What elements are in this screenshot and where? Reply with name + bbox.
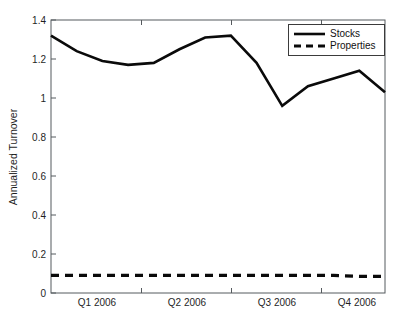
legend-label-stocks: Stocks [330,28,360,39]
x-tick-label-q2: Q2 2006 [168,297,207,308]
y-tick-label-1-2: 1.2 [32,54,46,65]
y-tick-label-0-6: 0.6 [32,171,46,182]
y-tick-label-1-4: 1.4 [32,15,46,26]
line-chart: 0 0.2 0.4 0.6 0.8 1 1.2 1.4 Q1 2006 Q2 2… [0,0,403,325]
chart-legend[interactable]: Stocks Properties [289,25,385,56]
x-tick-label-q1: Q1 2006 [78,297,117,308]
y-tick-label-0: 0 [40,288,46,299]
chart-figure: 0 0.2 0.4 0.6 0.8 1 1.2 1.4 Q1 2006 Q2 2… [0,0,403,325]
y-tick-label-0-2: 0.2 [32,249,46,260]
y-axis-title: Annualized Turnover [7,108,19,205]
y-tick-label-0-4: 0.4 [32,210,46,221]
x-tick-label-q3: Q3 2006 [258,297,297,308]
legend-label-properties: Properties [330,40,376,51]
x-tick-label-q4: Q4 2006 [338,297,377,308]
y-tick-label-0-8: 0.8 [32,132,46,143]
y-tick-label-1: 1 [40,93,46,104]
